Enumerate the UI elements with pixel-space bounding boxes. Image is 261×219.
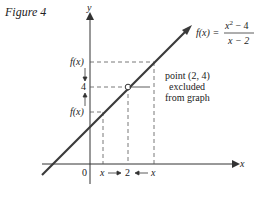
formula-denominator: x − 2 xyxy=(227,35,249,46)
x-tick-left-x: x xyxy=(99,167,105,178)
formula-numerator: x2 − 4 xyxy=(224,19,249,31)
y-tick-four: 4 xyxy=(81,81,86,92)
y-tick-top-fx: f(x) xyxy=(70,56,85,68)
function-line xyxy=(42,31,186,175)
figure-label: Figure 4 xyxy=(4,5,46,19)
arrow-right-icon xyxy=(117,171,121,175)
x-axis-label: x xyxy=(239,158,245,169)
x-tick-two: 2 xyxy=(125,167,130,178)
function-formula: f(x) = x2 − 4 x − 2 xyxy=(196,19,254,46)
annotation-line-3: from graph xyxy=(165,92,210,103)
y-axis-label: y xyxy=(86,2,92,13)
y-tick-bottom-fx: f(x) xyxy=(70,106,85,118)
annotation-line-2: excluded xyxy=(169,81,205,92)
origin-label: 0 xyxy=(82,167,87,178)
graph-canvas: Figure 4 y x 0 f(x) 4 f(x) x 2 x xyxy=(0,0,261,219)
arrow-up-icon xyxy=(83,93,87,97)
figure-4: Figure 4 y x 0 f(x) 4 f(x) x 2 x xyxy=(0,0,261,219)
arrow-left-icon xyxy=(135,171,139,175)
x-tick-right-x: x xyxy=(150,167,156,178)
guide-lines xyxy=(90,62,154,164)
formula-lhs: f(x) = xyxy=(196,27,219,39)
